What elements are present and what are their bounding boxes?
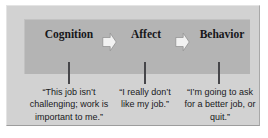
stage-caption-cognition: “This job isn’t challenging; work is imp…	[23, 86, 115, 123]
stage-label-cognition: Cognition	[24, 25, 114, 43]
diagram-panel: Cognition Affect Behavior “This job isn’…	[6, 5, 260, 126]
connector-line-cognition	[68, 62, 70, 84]
connector-line-affect	[144, 62, 146, 84]
process-flow-diagram: Cognition Affect Behavior “This job isn’…	[0, 0, 268, 138]
stage-caption-behavior: “I’m going to ask for a better job, or q…	[181, 86, 259, 123]
connector-line-behavior	[218, 62, 220, 84]
stage-label-affect: Affect	[115, 25, 177, 43]
stage-label-behavior: Behavior	[183, 25, 261, 43]
stage-caption-affect: “I really don’t like my job.”	[117, 86, 173, 111]
